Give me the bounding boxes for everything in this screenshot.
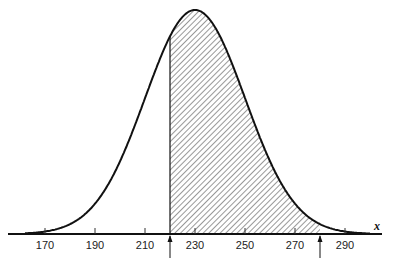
normal-curve-chart: 170190210230250270290 x (0, 0, 397, 260)
x-tick-label: 230 (186, 239, 204, 251)
x-tick-label: 270 (286, 239, 304, 251)
x-tick-label: 250 (236, 239, 254, 251)
x-tick-label: 190 (86, 239, 104, 251)
x-axis-label: x (373, 219, 380, 233)
x-tick-label: 170 (36, 239, 54, 251)
x-tick-label: 210 (136, 239, 154, 251)
shaded-region (170, 10, 320, 234)
arrow-up-icon (318, 235, 323, 258)
arrow-up-icon (168, 235, 173, 258)
x-tick-label: 290 (336, 239, 354, 251)
